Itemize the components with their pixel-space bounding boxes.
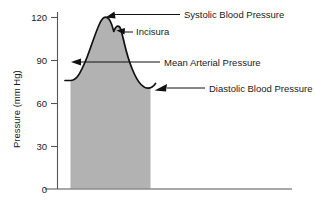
diastolic-annotation-label: Diastolic Blood Pressure — [209, 83, 313, 94]
y-axis-title: Pressure (mm Hg) — [11, 70, 22, 148]
y-tick-label-60: 60 — [36, 98, 47, 109]
chart-canvas: 120 90 60 30 0 Pressure (mm Hg) Systolic… — [0, 0, 315, 202]
y-tick-label-0: 0 — [42, 184, 47, 195]
waveform-shaded-area — [71, 17, 151, 188]
systolic-arrow-head — [106, 12, 116, 19]
map-annotation-label: Mean Arterial Pressure — [164, 57, 261, 68]
y-tick-label-90: 90 — [36, 55, 47, 66]
diastolic-arrow-head — [155, 84, 168, 92]
y-tick-label-30: 30 — [36, 141, 47, 152]
incisura-annotation-label: Incisura — [136, 26, 170, 37]
blood-pressure-waveform-figure: 120 90 60 30 0 Pressure (mm Hg) Systolic… — [0, 0, 315, 202]
systolic-annotation-label: Systolic Blood Pressure — [184, 9, 284, 20]
map-arrow-head — [71, 59, 81, 66]
y-tick-label-120: 120 — [31, 12, 47, 23]
